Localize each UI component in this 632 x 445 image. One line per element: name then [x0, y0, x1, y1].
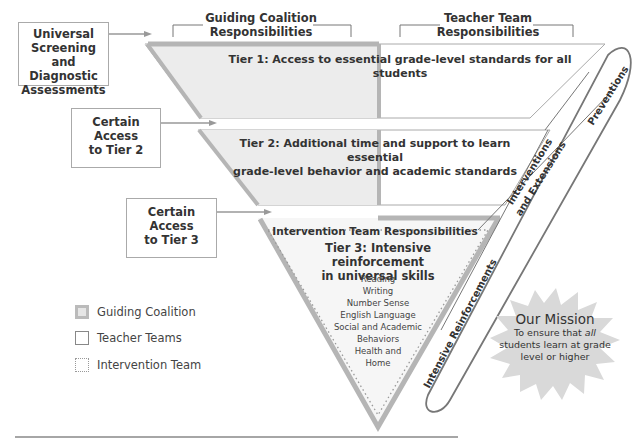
legend-teacher-teams: Teacher Teams: [75, 331, 182, 345]
skill-item: Social and Academic: [318, 321, 438, 333]
mission-statement: Our Mission To ensure that all students …: [495, 311, 615, 363]
legend-guiding-coalition: Guiding Coalition: [75, 305, 196, 319]
intervention-swatch-icon: [75, 358, 89, 372]
tier3-skills-list: Reading Writing Number Sense English Lan…: [318, 273, 438, 369]
guiding-coalition-header: Guiding Coalition Responsibilities: [200, 11, 322, 39]
skill-item: Number Sense: [318, 297, 438, 309]
skill-item: Writing: [318, 285, 438, 297]
skill-item: Home: [318, 357, 438, 369]
teacher-swatch-icon: [75, 331, 89, 345]
intervention-team-header: Intervention Team Responsibilities: [270, 224, 480, 238]
universal-screening-box: Universal Screening and Diagnostic Asses…: [18, 22, 109, 86]
tier3-access-box: Certain Access to Tier 3: [126, 198, 217, 258]
tier2-access-box: Certain Access to Tier 2: [71, 108, 161, 168]
legend-intervention-team: Intervention Team: [75, 358, 201, 372]
skill-item: Health and: [318, 345, 438, 357]
tier2-label: Tier 2: Additional time and support to l…: [220, 137, 530, 179]
teacher-team-header: Teacher Team Responsibilities: [428, 11, 548, 39]
skill-item: Behaviors: [318, 333, 438, 345]
tier1-label: Tier 1: Access to essential grade-level …: [200, 53, 600, 81]
skill-item: English Language: [318, 309, 438, 321]
skill-item: Reading: [318, 273, 438, 285]
guiding-swatch-icon: [75, 305, 89, 319]
